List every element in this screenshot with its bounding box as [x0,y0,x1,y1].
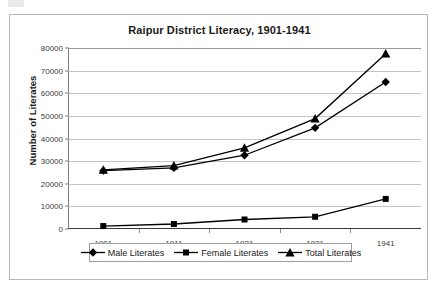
diamond-marker-icon [80,247,106,258]
triangle-marker-icon [277,247,303,258]
chart-frame: Raipur District Literacy, 1901-1941 Numb… [9,14,428,280]
x-axis-tick-mark [280,229,281,233]
y-axis-tick-label: 30000 [41,157,63,166]
plot-area-wrapper: 0100002000030000400005000060000700008000… [68,48,421,229]
data-point-marker [382,78,390,86]
y-axis-title: Number of Literates [27,51,38,191]
y-axis-tick-label: 10000 [41,202,63,211]
legend-item-label: Male Literates [108,248,165,258]
data-point-marker [242,216,248,222]
y-axis-tick-label: 0 [59,225,63,234]
data-point-marker [312,214,318,220]
legend-item[interactable]: Male Literates [80,247,165,258]
series-male-literates [99,78,390,175]
chart-title: Raipur District Literacy, 1901-1941 [10,24,429,36]
x-axis-tick-mark [139,229,140,233]
y-axis-tick-label: 20000 [41,179,63,188]
data-point-marker [240,143,249,152]
data-point-marker [383,196,389,202]
series-female-literates [100,196,388,229]
x-axis-tick-mark [350,229,351,233]
y-axis-tick-label: 70000 [41,66,63,75]
y-axis-tick-label: 80000 [41,44,63,53]
scan-artifact [8,0,24,7]
data-point-marker [171,221,177,227]
legend-item-label: Female Literates [201,248,268,258]
series-layer [68,48,421,229]
square-marker-icon [173,247,199,258]
legend-item[interactable]: Total Literates [277,247,361,258]
y-axis-tick-label: 50000 [41,111,63,120]
data-point-marker [311,124,319,132]
x-axis-tick-mark [209,229,210,233]
x-axis-tick-label: 1941 [377,239,395,248]
y-axis-tick-label: 60000 [41,89,63,98]
legend-item-label: Total Literates [305,248,361,258]
data-point-marker [381,49,390,58]
legend-item[interactable]: Female Literates [173,247,268,258]
data-point-marker [240,151,248,159]
y-axis-tick-label: 40000 [41,134,63,143]
chart-legend: Male LiteratesFemale LiteratesTotal Lite… [89,243,352,262]
data-point-marker [100,223,106,229]
